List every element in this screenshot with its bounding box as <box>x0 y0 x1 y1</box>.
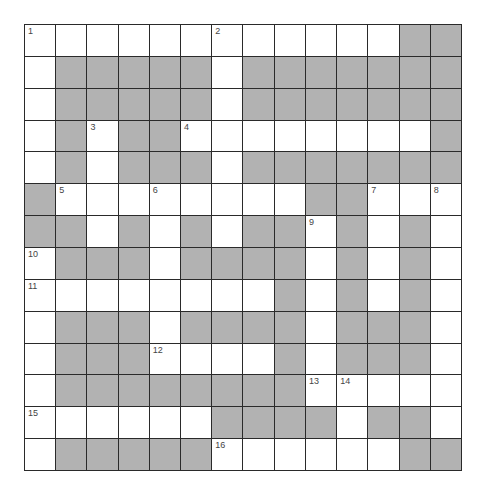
answer-cell[interactable] <box>212 152 242 183</box>
answer-cell[interactable] <box>368 375 398 406</box>
answer-cell[interactable]: 7 <box>368 184 398 215</box>
answer-cell[interactable] <box>87 216 117 247</box>
block-cell <box>275 344 305 375</box>
answer-cell[interactable]: 2 <box>212 25 242 56</box>
answer-cell[interactable] <box>119 407 149 438</box>
answer-cell[interactable]: 16 <box>212 439 242 470</box>
clue-number: 14 <box>340 377 350 386</box>
answer-cell[interactable] <box>243 121 273 152</box>
answer-cell[interactable] <box>212 280 242 311</box>
answer-cell[interactable]: 6 <box>150 184 180 215</box>
answer-cell[interactable] <box>25 152 55 183</box>
answer-cell[interactable] <box>400 121 430 152</box>
clue-number: 15 <box>28 409 38 418</box>
answer-cell[interactable] <box>150 280 180 311</box>
answer-cell[interactable] <box>368 216 398 247</box>
answer-cell[interactable] <box>150 248 180 279</box>
answer-cell[interactable] <box>150 312 180 343</box>
answer-cell[interactable] <box>368 280 398 311</box>
answer-cell[interactable] <box>337 121 367 152</box>
answer-cell[interactable]: 12 <box>150 344 180 375</box>
answer-cell[interactable] <box>119 25 149 56</box>
answer-cell[interactable] <box>368 121 398 152</box>
answer-cell[interactable] <box>25 121 55 152</box>
answer-cell[interactable] <box>243 344 273 375</box>
answer-cell[interactable]: 4 <box>181 121 211 152</box>
answer-cell[interactable] <box>87 152 117 183</box>
answer-cell[interactable] <box>25 312 55 343</box>
answer-cell[interactable] <box>306 25 336 56</box>
answer-cell[interactable] <box>306 121 336 152</box>
answer-cell[interactable] <box>306 344 336 375</box>
answer-cell[interactable] <box>181 407 211 438</box>
answer-cell[interactable] <box>212 344 242 375</box>
answer-cell[interactable] <box>431 312 461 343</box>
answer-cell[interactable] <box>25 89 55 120</box>
answer-cell[interactable] <box>306 248 336 279</box>
answer-cell[interactable] <box>87 280 117 311</box>
answer-cell[interactable] <box>150 407 180 438</box>
answer-cell[interactable] <box>25 439 55 470</box>
answer-cell[interactable] <box>181 344 211 375</box>
answer-cell[interactable] <box>25 344 55 375</box>
answer-cell[interactable] <box>368 439 398 470</box>
answer-cell[interactable]: 1 <box>25 25 55 56</box>
answer-cell[interactable] <box>212 121 242 152</box>
answer-cell[interactable] <box>243 439 273 470</box>
answer-cell[interactable] <box>56 25 86 56</box>
answer-cell[interactable] <box>400 375 430 406</box>
answer-cell[interactable] <box>243 184 273 215</box>
answer-cell[interactable] <box>150 216 180 247</box>
answer-cell[interactable] <box>275 25 305 56</box>
answer-cell[interactable] <box>431 344 461 375</box>
answer-cell[interactable]: 13 <box>306 375 336 406</box>
answer-cell[interactable] <box>431 375 461 406</box>
answer-cell[interactable] <box>119 280 149 311</box>
answer-cell[interactable] <box>431 248 461 279</box>
answer-cell[interactable] <box>337 439 367 470</box>
answer-cell[interactable] <box>87 407 117 438</box>
answer-cell[interactable] <box>431 280 461 311</box>
answer-cell[interactable] <box>306 312 336 343</box>
answer-cell[interactable] <box>212 57 242 88</box>
answer-cell[interactable] <box>25 57 55 88</box>
answer-cell[interactable]: 11 <box>25 280 55 311</box>
answer-cell[interactable] <box>87 25 117 56</box>
answer-cell[interactable] <box>368 248 398 279</box>
answer-cell[interactable] <box>337 407 367 438</box>
answer-cell[interactable] <box>212 184 242 215</box>
answer-cell[interactable] <box>150 25 180 56</box>
answer-cell[interactable] <box>400 184 430 215</box>
block-cell <box>119 248 149 279</box>
answer-cell[interactable]: 8 <box>431 184 461 215</box>
answer-cell[interactable] <box>181 184 211 215</box>
block-cell <box>119 216 149 247</box>
answer-cell[interactable]: 3 <box>87 121 117 152</box>
answer-cell[interactable] <box>368 25 398 56</box>
answer-cell[interactable] <box>431 407 461 438</box>
answer-cell[interactable]: 14 <box>337 375 367 406</box>
answer-cell[interactable] <box>87 184 117 215</box>
answer-cell[interactable] <box>56 407 86 438</box>
answer-cell[interactable] <box>243 280 273 311</box>
answer-cell[interactable] <box>337 25 367 56</box>
answer-cell[interactable] <box>275 439 305 470</box>
answer-cell[interactable] <box>119 184 149 215</box>
answer-cell[interactable] <box>181 280 211 311</box>
block-cell <box>431 89 461 120</box>
answer-cell[interactable] <box>181 25 211 56</box>
answer-cell[interactable] <box>275 184 305 215</box>
answer-cell[interactable] <box>56 280 86 311</box>
answer-cell[interactable]: 10 <box>25 248 55 279</box>
answer-cell[interactable]: 15 <box>25 407 55 438</box>
answer-cell[interactable] <box>306 439 336 470</box>
answer-cell[interactable] <box>243 25 273 56</box>
answer-cell[interactable] <box>212 89 242 120</box>
answer-cell[interactable]: 5 <box>56 184 86 215</box>
answer-cell[interactable] <box>275 121 305 152</box>
answer-cell[interactable] <box>25 375 55 406</box>
answer-cell[interactable]: 9 <box>306 216 336 247</box>
answer-cell[interactable] <box>431 216 461 247</box>
answer-cell[interactable] <box>212 216 242 247</box>
answer-cell[interactable] <box>306 280 336 311</box>
